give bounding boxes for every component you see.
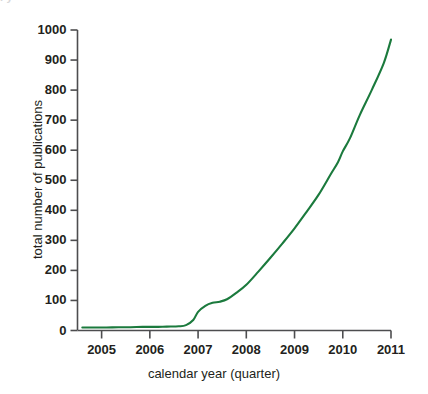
data-series-line: [82, 40, 391, 328]
chart-figure: l y 01002003004005006007008009001000 200…: [0, 0, 428, 394]
x-tick-label: 2007: [175, 343, 221, 356]
x-tick-label: 2008: [223, 343, 269, 356]
axis-lines: [78, 30, 392, 331]
x-tick-label: 2009: [272, 343, 318, 356]
x-axis-ticks: [102, 331, 391, 339]
x-tick-label: 2010: [320, 343, 366, 356]
y-tick-label: 100: [21, 293, 67, 306]
y-tick-label: 0: [21, 324, 67, 337]
x-tick-label: 2006: [127, 343, 173, 356]
y-tick-label: 1000: [21, 23, 67, 36]
x-tick-label: 2011: [368, 343, 414, 356]
x-tick-label: 2005: [79, 343, 125, 356]
y-axis-ticks: [71, 30, 78, 331]
y-axis-title: total number of publications: [30, 65, 45, 295]
x-axis-title: calendar year (quarter): [0, 366, 428, 381]
